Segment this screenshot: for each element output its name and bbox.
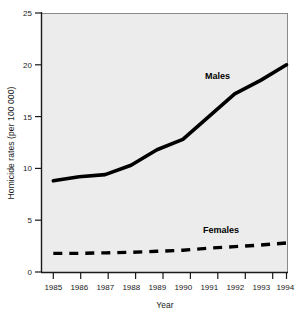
x-tick-label-1988: 1988 [122,283,140,292]
x-tick-label-1987: 1987 [96,283,114,292]
x-axis-title: Year [156,300,174,310]
series-annotation-females: Females [203,225,239,235]
x-tick-label-1986: 1986 [70,283,88,292]
y-axis-title: Homicide rates (per 100 000) [6,86,16,199]
y-axis-ticks [35,13,41,272]
x-tick-label-1991: 1991 [200,283,218,292]
homicide-rates-chart-figure: 25 20 15 10 5 0 1985 1986 1987 1988 1989… [0,0,301,317]
x-tick-label-1992: 1992 [226,283,244,292]
plot-area-background [41,13,288,272]
x-tick-label-1990: 1990 [174,283,192,292]
x-tick-label-1994: 1994 [276,283,294,292]
series-annotation-males: Males [205,71,230,81]
y-tick-label-25: 25 [23,9,32,18]
y-tick-label-5: 5 [28,216,33,225]
chart-canvas: 25 20 15 10 5 0 1985 1986 1987 1988 1989… [0,0,301,317]
x-tick-label-1993: 1993 [252,283,270,292]
x-tick-label-1989: 1989 [148,283,166,292]
x-tick-label-1985: 1985 [44,283,62,292]
y-tick-label-20: 20 [23,61,32,70]
y-tick-label-15: 15 [23,113,32,122]
y-tick-label-10: 10 [23,164,32,173]
y-tick-label-0: 0 [28,268,33,277]
